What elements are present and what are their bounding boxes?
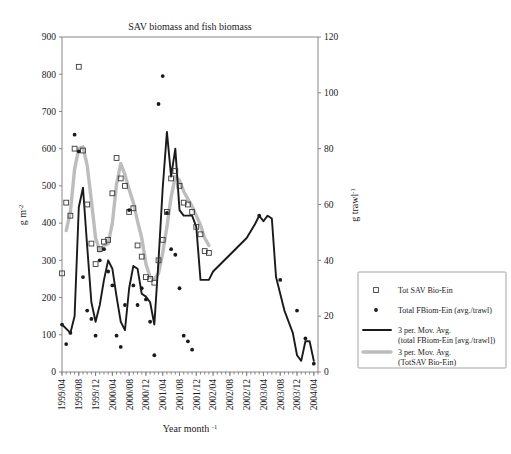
- left-tick-label: 700: [42, 107, 57, 117]
- total-fbiom-marker: [123, 303, 127, 307]
- left-axis-title: g m-2: [17, 205, 28, 226]
- x-tick-label: 2000/08: [125, 379, 135, 410]
- total-fbiom-marker: [102, 247, 106, 251]
- x-axis-title-group: Year month -1: [163, 423, 217, 434]
- x-tick-label: 2003/08: [276, 379, 286, 410]
- x-tick-label: 2003/12: [292, 379, 302, 410]
- x-tick-label: 2004/04: [309, 379, 319, 410]
- right-axis-ticks: 020406080100120: [318, 32, 339, 377]
- total-fbiom-marker: [173, 253, 177, 257]
- total-fbiom-marker: [190, 348, 194, 352]
- sav-fish-biomass-chart: SAV biomass and fish biomass 01002003004…: [0, 0, 511, 454]
- total-fbiom-marker: [161, 74, 165, 78]
- right-tick-label: 120: [324, 32, 339, 42]
- total-fbiom-marker: [131, 284, 135, 288]
- tot-sav-bio-marker: [72, 146, 77, 151]
- series-tot-sav-bio-markers: [60, 64, 212, 285]
- total-fbiom-marker: [68, 331, 72, 335]
- left-tick-label: 0: [51, 367, 56, 377]
- total-fbiom-marker: [178, 286, 182, 290]
- total-fbiom-marker: [295, 309, 299, 313]
- figure-container: SAV biomass and fish biomass 01002003004…: [0, 0, 511, 454]
- total-fbiom-marker: [140, 286, 144, 290]
- x-tick-label: 2003/04: [259, 379, 269, 410]
- x-tick-label: 2001/12: [192, 379, 202, 410]
- x-tick-label: 2001/04: [158, 379, 168, 410]
- left-axis-ticks: 0100200300400500600700800900: [42, 32, 62, 377]
- left-tick-label: 500: [42, 181, 57, 191]
- total-fbiom-marker: [94, 334, 98, 338]
- chart-title: SAV biomass and fish biomass: [128, 21, 252, 32]
- tot-sav-bio-marker: [93, 262, 98, 267]
- x-tick-label: 2000/12: [141, 379, 151, 410]
- right-tick-label: 60: [324, 200, 334, 210]
- legend-item-label[interactable]: 3 per. Mov. Avg.: [398, 326, 451, 335]
- total-fbiom-marker: [64, 342, 68, 346]
- total-fbiom-marker: [182, 334, 186, 338]
- legend-item-label[interactable]: 3 per. Mov. Avg.: [398, 348, 451, 357]
- total-fbiom-marker: [157, 102, 161, 106]
- legend-item-label[interactable]: Total FBiom-Ein (avg./trawl): [398, 306, 492, 315]
- total-fbiom-marker: [148, 320, 152, 324]
- right-tick-label: 0: [324, 367, 329, 377]
- x-tick-label: 2002/04: [208, 379, 218, 410]
- total-fbiom-marker: [106, 270, 110, 274]
- left-tick-label: 400: [42, 218, 57, 228]
- total-fbiom-marker: [152, 353, 156, 357]
- legend-item-label[interactable]: Tot SAV Bio-Ein: [398, 286, 453, 295]
- total-fbiom-marker: [110, 284, 114, 288]
- total-fbiom-marker: [77, 150, 81, 154]
- legend-marker-filled-circle: [374, 308, 378, 312]
- right-axis-title-group: g trawl-1: [349, 188, 360, 221]
- total-fbiom-marker: [127, 208, 131, 212]
- left-tick-label: 100: [42, 330, 57, 340]
- x-tick-label: 2002/12: [242, 379, 252, 410]
- total-fbiom-marker: [81, 275, 85, 279]
- tot-sav-bio-marker: [76, 64, 81, 69]
- total-fbiom-marker: [136, 303, 140, 307]
- x-axis-title: Year month -1: [163, 423, 217, 434]
- total-fbiom-marker: [144, 298, 148, 302]
- total-fbiom-marker: [165, 211, 169, 215]
- left-axis-title-group: g m-2: [17, 205, 28, 226]
- chart-legend: Tot SAV Bio-EinTotal FBiom-Ein (avg./tra…: [358, 272, 506, 368]
- x-tick-label: 2000/04: [108, 379, 118, 410]
- x-tick-label: 2001/08: [175, 379, 185, 410]
- legend-item-label[interactable]: (total FBiom-Ein [avg./trawl]): [398, 336, 495, 345]
- left-tick-label: 800: [42, 70, 57, 80]
- right-tick-label: 100: [324, 88, 339, 98]
- left-tick-label: 300: [42, 256, 57, 266]
- total-fbiom-marker: [115, 334, 119, 338]
- total-fbiom-marker: [98, 258, 102, 262]
- left-tick-label: 600: [42, 144, 57, 154]
- x-tick-label: 2002/08: [225, 379, 235, 410]
- total-fbiom-marker: [85, 309, 89, 313]
- x-axis-ticks: 1999/041999/081999/122000/042000/082000/…: [57, 372, 319, 410]
- legend-item-label[interactable]: (TotSAV Bio-Ein): [398, 358, 456, 367]
- right-tick-label: 80: [324, 144, 334, 154]
- tot-sav-bio-marker: [64, 200, 69, 205]
- x-tick-label: 1999/12: [91, 379, 101, 410]
- total-fbiom-marker: [186, 339, 190, 343]
- total-fbiom-marker: [257, 214, 261, 218]
- total-fbiom-marker: [73, 133, 77, 137]
- tot-sav-bio-marker: [85, 202, 90, 207]
- chart-title-group: SAV biomass and fish biomass: [128, 21, 252, 32]
- tot-sav-bio-marker: [89, 241, 94, 246]
- x-tick-label: 1999/04: [57, 379, 67, 410]
- total-fbiom-marker: [304, 337, 308, 341]
- total-fbiom-marker: [89, 317, 93, 321]
- tot-sav-bio-marker: [135, 243, 140, 248]
- left-tick-label: 200: [42, 293, 57, 303]
- x-tick-label: 1999/08: [74, 379, 84, 410]
- total-fbiom-marker: [169, 247, 173, 251]
- right-tick-label: 40: [324, 256, 334, 266]
- right-axis-title: g trawl-1: [349, 188, 360, 221]
- total-fbiom-marker: [60, 323, 64, 327]
- total-fbiom-marker: [312, 362, 316, 366]
- series-total-fbiom-markers: [60, 74, 316, 365]
- tot-sav-bio-marker: [114, 156, 119, 161]
- total-fbiom-marker: [119, 345, 123, 349]
- total-fbiom-marker: [278, 278, 282, 282]
- left-tick-label: 900: [42, 32, 57, 42]
